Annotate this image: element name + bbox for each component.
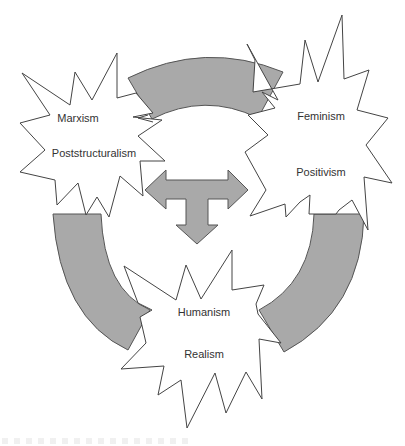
cut-off-caption-residue [2, 438, 192, 444]
node-label-feminism: Feminism [297, 111, 345, 122]
node-label-humanism: Humanism [178, 307, 231, 318]
center-three-way-arrow [145, 170, 248, 244]
node-label-marxism: Marxism [57, 113, 99, 124]
node-label-realism: Realism [184, 349, 224, 360]
cycle-diagram: Marxism Poststructuralism Feminism Posit… [0, 0, 405, 446]
star-shape-feminism [245, 15, 392, 230]
node-label-positivism: Positivism [296, 167, 346, 178]
diagram-canvas [0, 0, 405, 446]
arc-connector-right [259, 214, 364, 352]
star-shape-humanism [121, 250, 281, 428]
node-label-poststructuralism: Poststructuralism [52, 148, 136, 159]
